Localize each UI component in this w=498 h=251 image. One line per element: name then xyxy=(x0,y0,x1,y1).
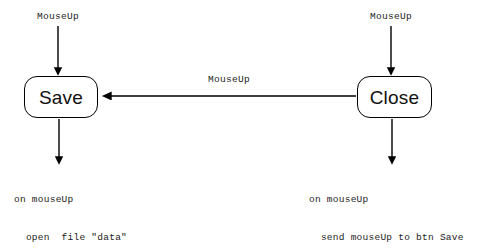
script-line: send mouseUp to btn Save xyxy=(309,232,464,245)
state-node-close[interactable]: Close xyxy=(357,76,432,118)
script-line: on mouseUp xyxy=(309,194,464,207)
event-label-mouseup-save: MouseUp xyxy=(37,12,79,22)
state-node-save[interactable]: Save xyxy=(24,76,98,118)
state-node-save-label: Save xyxy=(39,88,83,107)
state-node-close-label: Close xyxy=(370,88,420,107)
script-block-save: on mouseUp open file "data" write d "dat… xyxy=(14,169,198,251)
script-block-close: on mouseUp send mouseUp to btn Save end … xyxy=(309,169,464,251)
event-label-mouseup-close: MouseUp xyxy=(370,12,412,22)
state-transition-diagram: Save Close MouseUp MouseUp MouseUp on mo… xyxy=(0,0,498,251)
script-line: open file "data" xyxy=(14,232,198,245)
script-line: on mouseUp xyxy=(14,194,198,207)
event-label-mouseup-transition: MouseUp xyxy=(208,75,250,85)
